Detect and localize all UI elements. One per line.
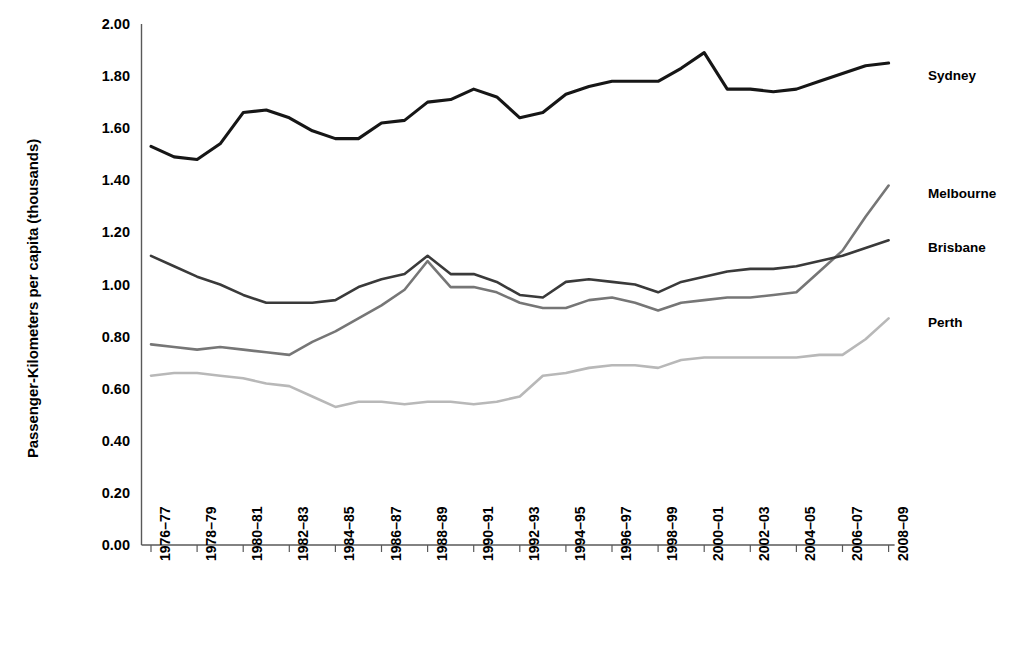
series-line-sydney [151, 53, 889, 160]
x-tick-label: 2006–07 [849, 506, 865, 561]
x-tick-label: 2000–01 [710, 506, 726, 561]
x-tick-label: 1988–89 [434, 506, 450, 561]
x-tick-label: 2008–09 [895, 506, 911, 561]
series-label-brisbane: Brisbane [928, 240, 986, 255]
series-label-perth: Perth [928, 315, 963, 330]
x-tick-label: 1976–77 [157, 506, 173, 561]
x-tick-label: 1980–81 [249, 506, 265, 561]
series-label-sydney: Sydney [928, 68, 976, 83]
x-tick-label: 1990–91 [480, 506, 496, 561]
x-tick-label: 1992–93 [526, 506, 542, 561]
x-tick-label: 2004–05 [802, 506, 818, 561]
x-tick-label: 2002–03 [756, 506, 772, 561]
x-tick-label: 1998–99 [664, 506, 680, 561]
x-tick-label: 1996–97 [618, 506, 634, 561]
series-line-melbourne [151, 186, 889, 355]
x-tick-label: 1986–87 [388, 506, 404, 561]
series-line-perth [151, 318, 889, 407]
x-tick-label: 1978–79 [203, 506, 219, 561]
x-tick-label: 1984–85 [341, 506, 357, 561]
chart-container: Passenger-Kilometers per capita (thousan… [0, 0, 1012, 649]
x-tick-label: 1994–95 [572, 506, 588, 561]
series-label-melbourne: Melbourne [928, 186, 996, 201]
x-tick-label: 1982–83 [295, 506, 311, 561]
